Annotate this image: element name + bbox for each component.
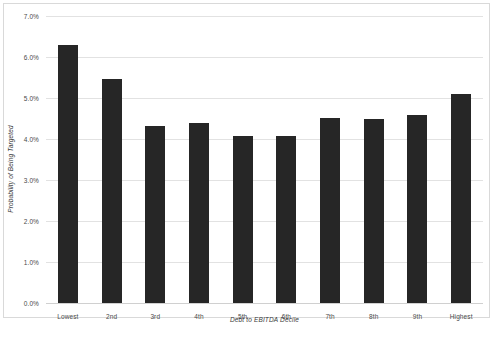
bar-slot	[46, 16, 90, 303]
bar-slot	[308, 16, 352, 303]
y-tick-label: 4.0%	[24, 136, 39, 143]
y-tick-label: 2.0%	[24, 218, 39, 225]
bar-slot	[439, 16, 483, 303]
bar-slot	[265, 16, 309, 303]
bar-slot	[352, 16, 396, 303]
bars-layer	[46, 16, 483, 303]
bar[interactable]	[189, 123, 209, 303]
y-tick-label: 0.0%	[24, 300, 39, 307]
bar-slot	[133, 16, 177, 303]
y-axis-tick-labels: 7.0%6.0%5.0%4.0%3.0%2.0%1.0%0.0%	[0, 16, 44, 303]
bar[interactable]	[320, 118, 340, 303]
x-axis-title: Debt to EBITDA Decile	[46, 316, 483, 323]
y-tick-label: 1.0%	[24, 259, 39, 266]
bar[interactable]	[102, 79, 122, 303]
bar-slot	[221, 16, 265, 303]
y-tick-label: 3.0%	[24, 177, 39, 184]
bar[interactable]	[364, 119, 384, 303]
bar-chart-figure: Probability of Being Targeted 7.0%6.0%5.…	[0, 0, 494, 337]
bar-slot	[396, 16, 440, 303]
gridline	[46, 303, 483, 304]
y-tick-label: 6.0%	[24, 54, 39, 61]
bar[interactable]	[451, 94, 471, 303]
y-tick-label: 5.0%	[24, 95, 39, 102]
bar[interactable]	[276, 136, 296, 303]
bar[interactable]	[407, 115, 427, 303]
bar[interactable]	[233, 136, 253, 303]
bar-slot	[177, 16, 221, 303]
bar-slot	[90, 16, 134, 303]
plot-area	[46, 16, 483, 303]
bar[interactable]	[145, 126, 165, 303]
bar[interactable]	[58, 45, 78, 303]
y-tick-label: 7.0%	[24, 13, 39, 20]
